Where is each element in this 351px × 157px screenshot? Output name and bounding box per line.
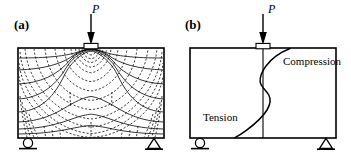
load-arrow-b: [259, 14, 267, 45]
panel-label-b: (b): [185, 17, 201, 33]
pin-support-a: [145, 138, 163, 149]
load-label-b: P: [268, 2, 275, 17]
bearing-plate-a: [84, 43, 98, 48]
tension-zone-label: Tension: [203, 111, 238, 123]
roller-support-b: [191, 138, 209, 148]
panel-label-a: (a): [14, 17, 29, 33]
load-arrow-a: [87, 14, 95, 45]
panel-b: [190, 14, 336, 149]
bearing-plate-b: [256, 43, 270, 48]
roller-support-a: [19, 138, 37, 148]
pin-support-b: [317, 138, 335, 149]
figure-canvas: [0, 0, 351, 157]
panel-a: [18, 14, 164, 149]
beam-outline-a: [18, 48, 164, 138]
load-label-a: P: [92, 2, 99, 17]
compression-zone-label: Compression: [283, 55, 341, 67]
